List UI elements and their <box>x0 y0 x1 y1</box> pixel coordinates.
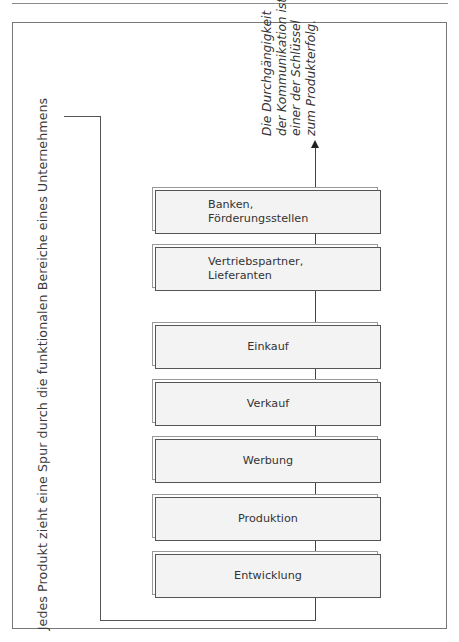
box-werbung: Werbung <box>155 439 381 483</box>
box-entwicklung: Entwicklung <box>155 554 381 598</box>
note-line: der Kommunikation ist <box>275 0 290 136</box>
box-label: Produktion <box>238 512 298 526</box>
box-label: Werbung <box>243 454 293 468</box>
side-label: Jedes Produkt zieht eine Spur durch die … <box>35 98 50 631</box>
bracket-bottom-line <box>100 620 316 621</box>
top-rule <box>12 3 448 4</box>
note-line: zum Produkterfolg. <box>304 0 319 136</box>
box-banken: Banken,Förderungsstellen <box>155 190 381 234</box>
box-label-line: Lieferanten <box>208 269 380 283</box>
box-label: Verkauf <box>247 397 289 411</box>
box-label-line: Vertriebspartner, <box>208 255 380 269</box>
box-vertriebspartner: Vertriebspartner,Lieferanten <box>155 247 381 291</box>
box-einkauf: Einkauf <box>155 325 381 369</box>
arrow-up-icon <box>311 140 319 148</box>
note-line: Die Durchgängigkeit <box>260 0 275 136</box>
box-label: Einkauf <box>247 340 288 354</box>
bracket-vertical-line <box>100 116 101 620</box>
box-label-line: Banken, <box>208 198 380 212</box>
box-produktion: Produktion <box>155 497 381 541</box>
box-label-line: Förderungsstellen <box>208 212 380 226</box>
note-line: einer der Schlüssel <box>289 0 304 136</box>
box-verkauf: Verkauf <box>155 382 381 426</box>
bracket-top-line <box>64 116 100 117</box>
box-label: Entwicklung <box>234 569 302 583</box>
